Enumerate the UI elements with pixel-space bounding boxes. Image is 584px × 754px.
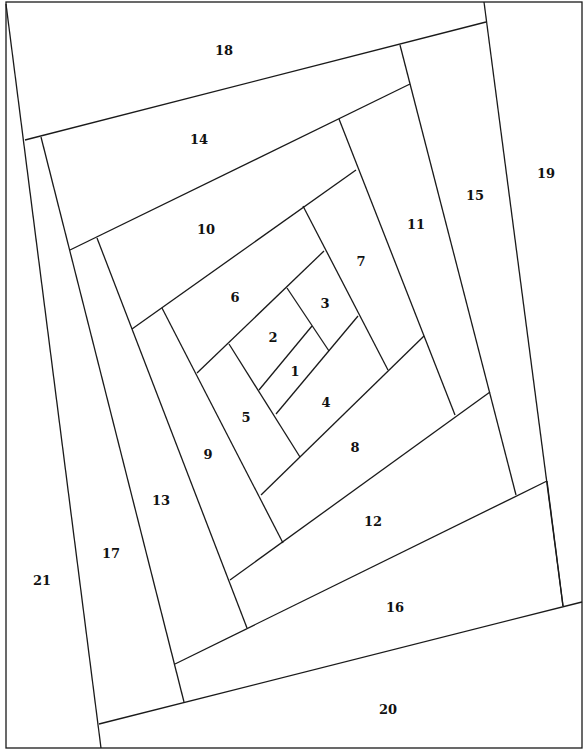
piece-label-8: 8 — [350, 440, 359, 455]
piece-label-9: 9 — [203, 447, 212, 462]
piece-label-21: 21 — [33, 573, 51, 588]
piece-label-5: 5 — [241, 410, 250, 425]
piece-label-6: 6 — [230, 290, 239, 305]
piece-label-11: 11 — [407, 217, 425, 232]
piece-label-15: 15 — [466, 188, 484, 203]
piece-label-1: 1 — [290, 364, 299, 379]
piece-label-4: 4 — [321, 395, 330, 410]
piece-label-14: 14 — [190, 132, 208, 147]
piece-label-13: 13 — [152, 493, 170, 508]
piece-label-18: 18 — [215, 43, 233, 58]
piece-label-12: 12 — [364, 514, 382, 529]
piece-label-7: 7 — [356, 254, 365, 269]
piece-label-16: 16 — [386, 600, 404, 615]
piece-label-3: 3 — [320, 296, 329, 311]
piece-label-10: 10 — [197, 222, 215, 237]
piece-label-2: 2 — [268, 330, 277, 345]
piece-label-17: 17 — [102, 546, 120, 561]
piece-label-19: 19 — [537, 166, 555, 181]
piece-label-20: 20 — [379, 702, 397, 717]
